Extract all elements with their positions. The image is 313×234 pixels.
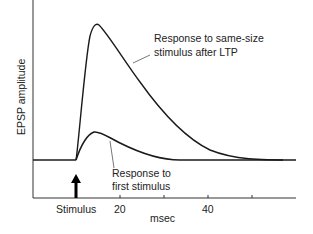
- ltp-leader-line: [133, 55, 150, 63]
- first-response-curve: [76, 132, 283, 160]
- stimulus-label: Stimulus: [56, 203, 96, 215]
- y-axis-label: EPSP amplitude: [15, 59, 27, 135]
- first-leader-line: [110, 141, 114, 168]
- epsp-ltp-chart: Response to same-size stimulus after LTP…: [0, 0, 313, 234]
- ltp-response-curve: [76, 24, 296, 160]
- x-axis-label: msec: [150, 212, 175, 224]
- x-tick-label-20: 20: [114, 203, 126, 215]
- ltp-annotation-line2: stimulus after LTP: [154, 46, 238, 58]
- first-annotation-line1: Response to: [112, 167, 171, 179]
- ltp-annotation-line1: Response to same-size: [154, 32, 264, 44]
- first-annotation-line2: first stimulus: [112, 180, 170, 192]
- stimulus-arrow-icon: [71, 174, 81, 198]
- x-tick-label-40: 40: [202, 203, 214, 215]
